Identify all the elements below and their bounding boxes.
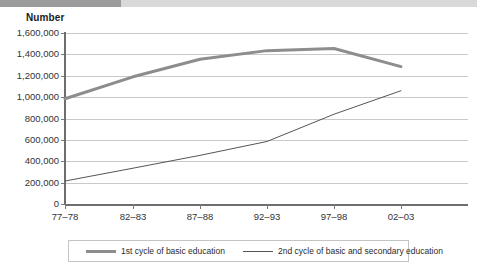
legend-label-2nd-cycle: 2nd cycle of basic and secondary educati… [278, 246, 443, 256]
legend-swatch-icon-1st-cycle [86, 250, 116, 253]
legend-swatch-icon-2nd-cycle [243, 251, 273, 252]
series-layer [0, 0, 477, 275]
legend-label-1st-cycle: 1st cycle of basic education [121, 246, 225, 256]
chart-figure: Number 0200,000400,000600,000800,0001,00… [0, 0, 477, 275]
chart-legend: 1st cycle of basic education 2nd cycle o… [68, 240, 409, 262]
series-line-2 [65, 91, 401, 181]
series-line-1 [65, 48, 401, 98]
legend-item-1st-cycle: 1st cycle of basic education [86, 246, 225, 256]
legend-item-2nd-cycle: 2nd cycle of basic and secondary educati… [243, 246, 443, 256]
